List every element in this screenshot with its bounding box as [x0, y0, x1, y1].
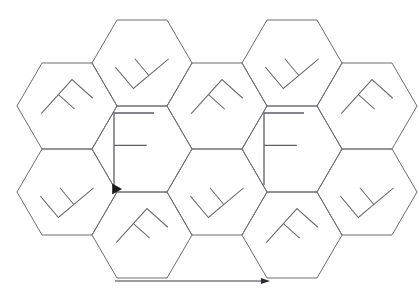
- hexagon-outline-group: [17, 20, 417, 278]
- rotated-f-glyph-path: [266, 209, 318, 262]
- direction-arrow-head: [261, 278, 270, 284]
- hexagon-cell: [17, 63, 117, 149]
- hexagon-cell: [317, 149, 417, 235]
- rotated-f-glyph: [190, 166, 243, 217]
- direction-arrow-group: [115, 278, 270, 284]
- hexagon-cell: [92, 106, 192, 192]
- rotated-f-glyph-path: [190, 166, 243, 217]
- rotated-f-glyph: [116, 209, 168, 262]
- rotated-f-glyph: [341, 80, 393, 133]
- rotated-f-glyph-path: [340, 166, 393, 217]
- hexagon-cell: [167, 63, 267, 149]
- rotated-f-glyph-path: [341, 80, 393, 133]
- rotated-f-glyph: [191, 80, 243, 133]
- rotated-f-glyph-path: [41, 80, 93, 133]
- hexagon-cell: [92, 20, 192, 106]
- rotated-f-glyph: [266, 209, 318, 262]
- upright-letter-f: [114, 113, 154, 185]
- rotated-f-glyph-path: [115, 37, 168, 88]
- figure-canvas: [0, 0, 419, 295]
- upright-letter-f: [264, 113, 304, 185]
- upright-letter-f-path: [114, 113, 154, 185]
- hexagon-cell: [242, 192, 342, 278]
- rotated-f-glyph-path: [40, 166, 93, 217]
- rotated-f-glyph: [40, 166, 93, 217]
- hexagon-cell: [242, 106, 342, 192]
- rotated-f-glyph: [115, 37, 168, 88]
- rotated-f-glyph: [340, 166, 393, 217]
- hexagon-cell: [317, 63, 417, 149]
- hexagon-cell: [92, 192, 192, 278]
- rotated-f-glyph-path: [191, 80, 243, 133]
- hexagon-cell: [17, 149, 117, 235]
- rotated-f-glyph: [41, 80, 93, 133]
- rotated-f-glyph-path: [265, 37, 318, 88]
- hexagon-tiling-svg: [0, 0, 419, 295]
- hexagon-cell: [242, 20, 342, 106]
- rotated-f-glyph: [265, 37, 318, 88]
- upright-letter-f-path: [264, 113, 304, 185]
- hexagon-cell: [167, 149, 267, 235]
- rotated-f-glyph-path: [116, 209, 168, 262]
